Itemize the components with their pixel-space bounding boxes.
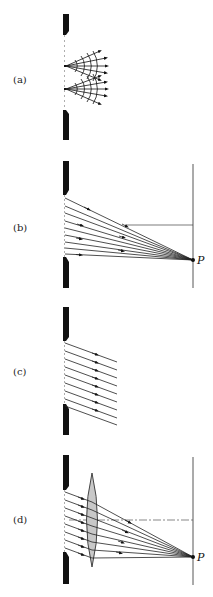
panel-c: (c) xyxy=(13,307,117,435)
slit-barrier xyxy=(63,14,69,140)
panel-label-d: (d) xyxy=(13,514,27,525)
wavelet-upper xyxy=(64,51,107,81)
wavelet-lower xyxy=(64,74,107,104)
rays-converging xyxy=(65,198,193,260)
point-p xyxy=(191,258,195,262)
panel-d: (d) xyxy=(13,455,205,585)
panel-label-c: (c) xyxy=(13,366,27,377)
rays-parallel xyxy=(65,343,117,425)
panel-label-a: (a) xyxy=(13,74,27,85)
rays-focused xyxy=(65,492,193,558)
point-p-label: P xyxy=(196,551,205,564)
panel-a: (a) xyxy=(13,14,107,140)
slit-barrier xyxy=(63,161,69,288)
point-p xyxy=(191,555,195,559)
point-p-label: P xyxy=(196,254,205,267)
converging-lens xyxy=(87,473,98,567)
slit-barrier xyxy=(63,455,69,584)
panel-label-b: (b) xyxy=(13,222,27,233)
slit-barrier xyxy=(63,307,69,435)
panel-b: (b) P xyxy=(13,161,205,288)
diffraction-figure: (a) xyxy=(0,0,213,597)
